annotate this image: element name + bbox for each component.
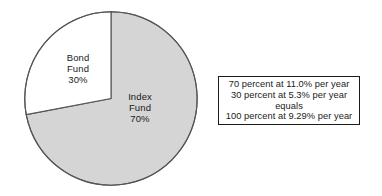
pie-chart-figure — [24, 11, 198, 186]
pie-slice-label-bond-fund: Bond Fund 30% — [52, 52, 104, 86]
bond-fund-label-line2: Fund — [52, 63, 104, 74]
annotation-box: 70 percent at 11.0% per year 30 percent … — [218, 76, 360, 125]
annotation-line-2: 30 percent at 5.3% per year — [231, 90, 347, 101]
annotation-line-4: 100 percent at 9.29% per year — [226, 111, 353, 122]
index-fund-label-value: 70% — [114, 113, 166, 124]
index-fund-label-line2: Fund — [114, 102, 166, 113]
pie-chart-page: Bond Fund 30% Index Fund 70% 70 percent … — [0, 0, 382, 196]
bond-fund-label-line1: Bond — [52, 52, 104, 63]
annotation-line-1: 70 percent at 11.0% per year — [229, 79, 350, 90]
bond-fund-label-value: 30% — [52, 74, 104, 85]
pie-slice-label-index-fund: Index Fund 70% — [114, 91, 166, 125]
annotation-line-3: equals — [275, 101, 303, 112]
index-fund-label-line1: Index — [114, 91, 166, 102]
pie-chart-svg — [24, 11, 198, 186]
